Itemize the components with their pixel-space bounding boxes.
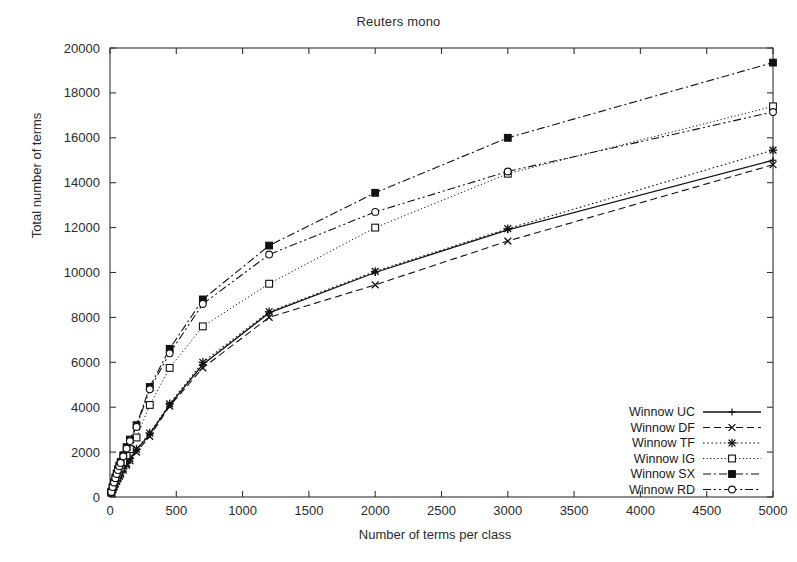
x-tick-label: 2500: [427, 503, 456, 518]
data-point-marker: [729, 486, 736, 493]
y-tick-label: 10000: [64, 265, 100, 280]
data-point-marker: [199, 323, 206, 330]
legend-item-label: Winnow IG: [634, 452, 695, 466]
legend-item[interactable]: Winnow TF: [632, 436, 761, 450]
legend-item-label: Winnow TF: [632, 436, 695, 450]
data-point-marker: [770, 59, 777, 66]
legend-item[interactable]: Winnow SX: [630, 467, 761, 481]
data-point-marker: [372, 208, 379, 215]
series-line: [111, 112, 773, 492]
data-point-marker: [133, 434, 140, 441]
x-tick-label: 4500: [692, 503, 721, 518]
chart-figure: Reuters mono Total number of terms Numbe…: [0, 0, 797, 562]
y-tick-label: 6000: [71, 355, 100, 370]
data-point-marker: [146, 402, 153, 409]
data-point-marker: [166, 350, 173, 357]
data-point-marker: [729, 471, 736, 478]
data-point-marker: [504, 168, 511, 175]
data-point-marker: [266, 242, 273, 249]
x-tick-label: 3500: [560, 503, 589, 518]
legend-item-label: Winnow UC: [629, 405, 695, 419]
data-point-marker: [126, 438, 133, 445]
y-tick-label: 2000: [71, 445, 100, 460]
data-point-marker: [120, 453, 127, 460]
x-tick-label: 2000: [361, 503, 390, 518]
y-tick-label: 4000: [71, 400, 100, 415]
y-tick-label: 0: [93, 490, 100, 505]
y-tick-label: 12000: [64, 220, 100, 235]
series-line: [111, 106, 773, 492]
data-point-marker: [372, 224, 379, 231]
data-point-marker: [146, 386, 153, 393]
legend-item-label: Winnow RD: [629, 483, 695, 497]
y-tick-label: 8000: [71, 310, 100, 325]
y-tick-label: 14000: [64, 175, 100, 190]
data-point-marker: [729, 455, 736, 462]
data-point-marker: [372, 189, 379, 196]
x-tick-label: 500: [165, 503, 187, 518]
legend-item-label: Winnow DF: [630, 421, 695, 435]
legend-item[interactable]: Winnow IG: [634, 452, 761, 466]
data-point-marker: [133, 424, 140, 431]
x-tick-label: 1000: [228, 503, 257, 518]
x-tick-label: 0: [106, 503, 113, 518]
y-tick-label: 16000: [64, 130, 100, 145]
data-point-marker: [266, 280, 273, 287]
x-tick-label: 3000: [493, 503, 522, 518]
y-tick-label: 20000: [64, 41, 100, 56]
data-point-marker: [117, 459, 124, 466]
legend-item[interactable]: Winnow UC: [629, 405, 761, 419]
y-tick-label: 18000: [64, 85, 100, 100]
plot-area: 0500100015002000250030003500400045005000…: [0, 0, 797, 562]
legend-item[interactable]: Winnow RD: [629, 483, 761, 497]
chart-legend: Winnow UCWinnow DFWinnow TFWinnow IGWinn…: [629, 405, 761, 497]
data-point-marker: [770, 109, 777, 116]
x-tick-label: 1500: [294, 503, 323, 518]
x-tick-label: 5000: [759, 503, 788, 518]
data-point-marker: [266, 251, 273, 258]
data-point-marker: [199, 301, 206, 308]
data-point-marker: [123, 445, 130, 452]
legend-item-label: Winnow SX: [630, 467, 695, 481]
legend-item[interactable]: Winnow DF: [630, 421, 761, 435]
data-point-marker: [504, 134, 511, 141]
data-point-marker: [166, 365, 173, 372]
x-tick-label: 4000: [626, 503, 655, 518]
